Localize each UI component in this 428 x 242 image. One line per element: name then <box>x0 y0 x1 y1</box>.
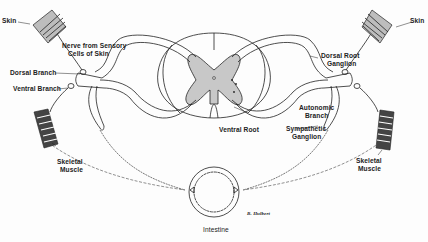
skeletal-muscle-right <box>376 110 394 150</box>
visceral-nerve-left <box>100 130 185 190</box>
spinal-nerve-diagram: Skin Skin Nerve from Sensory Cells of Sk… <box>0 0 428 242</box>
nerve-to-muscle-right <box>360 88 378 112</box>
label-skeletal-muscle-right-line1: Skeletal <box>356 157 382 165</box>
label-intestine: Intestine <box>203 226 229 234</box>
skeletal-muscle-left <box>34 109 58 148</box>
label-sympathetic-ganglion-line1: Sympathetic <box>286 125 326 133</box>
label-skeletal-muscle-left-line2: Muscle <box>60 166 83 174</box>
dorsal-root-right <box>232 35 333 72</box>
skin-left <box>33 10 66 43</box>
label-nerve-sensory-line2: Cells of Skin <box>68 50 109 58</box>
label-dorsal-branch: Dorsal Branch <box>10 69 56 77</box>
ventral-fissure <box>210 105 218 119</box>
spinal-nerve-right <box>324 73 352 88</box>
dorsal-root-left <box>95 35 196 72</box>
label-skin-right: Skin <box>410 17 424 25</box>
label-skeletal-muscle-left-line1: Skeletal <box>57 158 83 166</box>
label-autonomic-branch-line1: Autonomic <box>299 104 334 112</box>
label-ventral-branch: Ventral Branch <box>13 85 61 93</box>
autonomic-branch-left <box>89 86 104 130</box>
label-skeletal-muscle-right-line2: Muscle <box>358 165 381 173</box>
ventral-root-left <box>100 80 196 111</box>
label-sympathetic-ganglion-line2: Ganglion <box>292 133 321 141</box>
intestine <box>189 167 239 217</box>
label-skin-left: Skin <box>2 17 16 25</box>
label-dorsal-root-ganglion-line1: Dorsal Root <box>321 52 359 60</box>
body-outline-arc <box>45 140 383 190</box>
spinal-nerve-left <box>76 73 104 88</box>
label-dorsal-root-ganglion-line2: Ganglion <box>327 60 356 68</box>
label-nerve-sensory-line1: Nerve from Sensory <box>62 42 126 50</box>
skin-right <box>362 10 392 43</box>
artist-signature: B. Hulbert <box>247 210 270 218</box>
label-ventral-root: Ventral Root <box>219 126 259 134</box>
label-autonomic-branch-line2: Branch <box>305 112 328 120</box>
diagram-drawing <box>0 0 428 242</box>
